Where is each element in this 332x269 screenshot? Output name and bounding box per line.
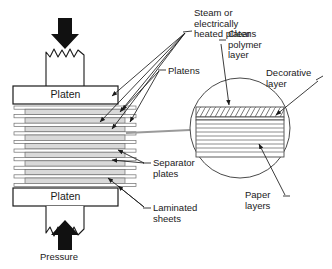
separator-plate [14,140,136,143]
label-pressure: Pressure [40,252,78,263]
label-clear-polymer-layer: Clear polymer layer [228,29,262,61]
label-paper-layers: Paper layers [245,190,270,211]
paper-layers [196,120,284,157]
label-decorative-layer: Decorative layer [266,68,311,89]
magnified-detail-circle [190,78,290,178]
leader-platens [122,70,166,122]
clear-polymer-layer [196,107,284,117]
laminated-sheet [25,126,125,131]
separator-plate [14,132,136,135]
label-laminated-sheets: Laminated sheets [153,203,197,224]
top-ram [46,49,84,86]
label-platens: Platens [168,66,200,77]
laminated-sheet [25,144,125,149]
separator-plate [14,115,136,118]
laminated-sheet [25,169,125,174]
magnifier-connector [126,130,190,133]
label-platen-bottom: Platen [13,191,118,202]
laminated-sheet [25,135,125,140]
separator-plate [14,106,136,109]
separator-plate [14,166,136,169]
lamination-press-illustration [0,0,332,269]
laminated-sheet [25,178,125,183]
label-platen-top: Platen [13,89,118,100]
separator-plate [14,149,136,152]
separator-plate [14,175,136,178]
diagram-canvas: Steam or electrically heated platens Pla… [0,0,332,269]
separator-plate [14,123,136,126]
press-stack [14,106,136,187]
top-pressure-arrow [51,18,79,49]
label-separator-plates: Separator plates [153,158,195,179]
laminated-sheet [25,161,125,166]
laminated-sheet [25,118,125,123]
laminated-sheet [25,152,125,157]
